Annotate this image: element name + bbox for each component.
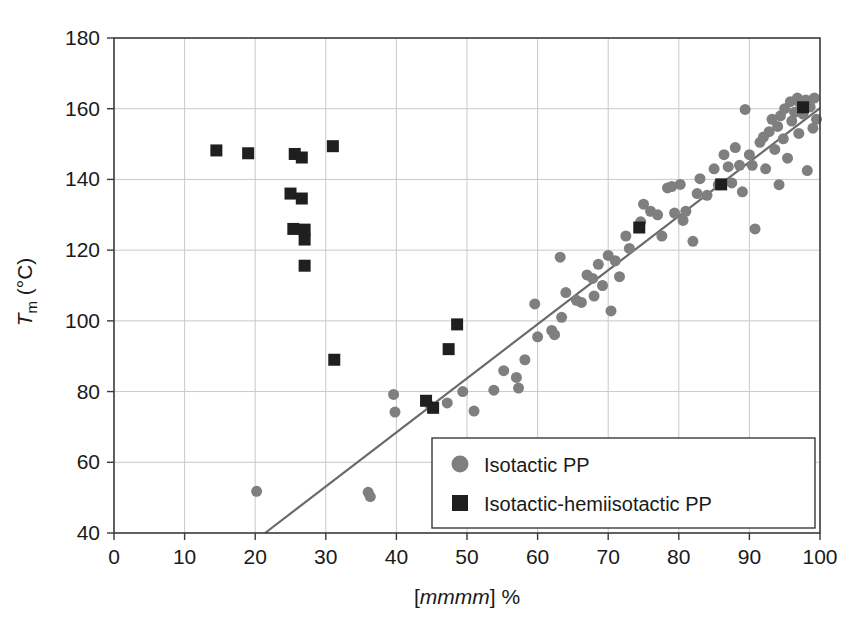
x-tick-label: 60	[526, 545, 549, 568]
legend: Isotactic PP Isotactic-hemiisotactic PP	[432, 438, 815, 528]
data-point-circle	[620, 231, 631, 242]
data-point-circle	[669, 208, 680, 219]
data-point-circle	[726, 177, 737, 188]
legend-square-marker-icon	[452, 495, 468, 511]
legend-entry-isotactic-hemiisotactic-pp: Isotactic-hemiisotactic PP	[452, 493, 712, 515]
plot-background	[0, 0, 862, 636]
data-point-circle	[587, 273, 598, 284]
data-point-circle	[513, 383, 524, 394]
data-point-circle	[723, 161, 734, 172]
data-point-circle	[675, 179, 686, 190]
data-point-square	[285, 188, 297, 200]
legend-label-isotactic-pp: Isotactic PP	[484, 454, 590, 476]
data-point-circle	[589, 291, 600, 302]
y-tick-label: 80	[77, 380, 100, 403]
legend-circle-marker-icon	[452, 456, 469, 473]
x-tick-label: 0	[108, 545, 120, 568]
data-point-circle	[532, 331, 543, 342]
data-point-circle	[457, 386, 468, 397]
x-axis-title-italic: mmmm	[420, 585, 490, 608]
x-axis-title-bracket-close: ] %	[490, 585, 520, 608]
data-point-circle	[809, 93, 820, 104]
data-point-circle	[555, 252, 566, 263]
data-point-circle	[549, 329, 560, 340]
data-point-circle	[737, 186, 748, 197]
x-tick-label: 40	[385, 545, 408, 568]
y-tick-label: 160	[65, 97, 100, 120]
y-tick-label: 180	[65, 26, 100, 49]
data-point-square	[287, 223, 299, 235]
data-point-square	[451, 318, 463, 330]
data-point-square	[633, 222, 645, 234]
x-tick-label: 90	[738, 545, 761, 568]
data-point-circle	[597, 280, 608, 291]
y-tick-label: 100	[65, 309, 100, 332]
data-point-square	[299, 260, 311, 272]
data-point-circle	[593, 259, 604, 270]
data-point-circle	[529, 298, 540, 309]
data-point-circle	[750, 223, 761, 234]
data-point-circle	[614, 271, 625, 282]
data-point-circle	[624, 243, 635, 254]
data-point-square	[299, 234, 311, 246]
data-point-circle	[389, 407, 400, 418]
data-point-circle	[782, 153, 793, 164]
data-point-circle	[734, 160, 745, 171]
data-point-circle	[556, 312, 567, 323]
x-tick-label: 100	[802, 545, 837, 568]
data-point-circle	[760, 163, 771, 174]
data-point-circle	[576, 297, 587, 308]
legend-label-isotactic-hemiisotactic-pp: Isotactic-hemiisotactic PP	[484, 493, 712, 515]
data-point-circle	[442, 397, 453, 408]
chart-figure: 0102030405060708090100 40608010012014016…	[0, 0, 862, 636]
y-axis-title-subscript: m	[23, 301, 40, 314]
y-tick-label: 60	[77, 450, 100, 473]
data-point-circle	[802, 165, 813, 176]
data-point-circle	[469, 406, 480, 417]
scatter-plot-svg: 0102030405060708090100 40608010012014016…	[0, 0, 862, 636]
data-point-circle	[365, 491, 376, 502]
svg-text:Tm (°C): Tm (°C)	[13, 258, 40, 327]
data-point-circle	[774, 179, 785, 190]
data-point-circle	[793, 128, 804, 139]
data-point-circle	[560, 287, 571, 298]
data-point-square	[427, 402, 439, 414]
data-point-circle	[772, 121, 783, 132]
svg-text:[mmmm] %: [mmmm] %	[414, 585, 520, 608]
data-point-circle	[519, 354, 530, 365]
data-point-circle	[778, 133, 789, 144]
x-tick-label: 10	[173, 545, 196, 568]
x-tick-label: 70	[597, 545, 620, 568]
data-point-square	[443, 343, 455, 355]
data-point-circle	[747, 160, 758, 171]
data-point-circle	[718, 149, 729, 160]
data-point-circle	[680, 206, 691, 217]
y-tick-label: 40	[77, 521, 100, 544]
x-tick-label: 20	[244, 545, 267, 568]
data-point-circle	[388, 389, 399, 400]
data-point-circle	[694, 173, 705, 184]
data-point-circle	[709, 163, 720, 174]
y-tick-label: 140	[65, 167, 100, 190]
data-point-circle	[511, 372, 522, 383]
data-point-circle	[606, 305, 617, 316]
data-point-square	[327, 140, 339, 152]
data-point-circle	[687, 236, 698, 247]
y-axis-title-unit: (°C)	[13, 258, 36, 301]
data-point-circle	[656, 231, 667, 242]
data-point-square	[296, 193, 308, 205]
data-point-square	[797, 101, 809, 113]
data-point-square	[328, 354, 340, 366]
data-point-square	[715, 178, 727, 190]
data-point-square	[210, 144, 222, 156]
data-point-circle	[744, 149, 755, 160]
data-point-square	[242, 147, 254, 159]
data-point-circle	[740, 104, 751, 115]
x-tick-label: 50	[455, 545, 478, 568]
data-point-circle	[251, 486, 262, 497]
data-point-circle	[488, 385, 499, 396]
data-point-circle	[652, 209, 663, 220]
data-point-circle	[769, 144, 780, 155]
y-tick-label: 120	[65, 238, 100, 261]
data-point-circle	[730, 142, 741, 153]
